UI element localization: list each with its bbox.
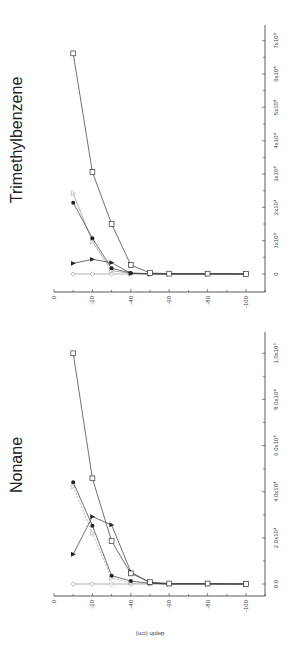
data-point-diamond-open (90, 272, 94, 276)
concentration-tick-label: 2.0x10⁴ (273, 527, 279, 548)
data-point-circle-filled (110, 266, 114, 270)
data-point-diamond-open (71, 272, 75, 276)
series-square-open (71, 351, 249, 586)
series-triangle-filled (71, 514, 249, 586)
data-point-diamond-open (71, 582, 75, 586)
data-point-triangle-filled (109, 260, 114, 265)
data-point-diamond-open (90, 582, 94, 586)
concentration-tick-label: 6x10⁴ (273, 66, 279, 82)
data-point-circle-filled (129, 579, 133, 583)
data-point-square-open (71, 51, 76, 56)
data-point-diamond-open (109, 582, 113, 586)
depth-tick-label: -60 (166, 295, 172, 304)
data-point-square-open (71, 351, 76, 356)
data-point-square-open (90, 476, 95, 481)
data-point-square-open (128, 571, 133, 576)
depth-tick-label: -20 (89, 295, 95, 304)
series-square-open (71, 51, 249, 276)
concentration-tick-label: 1x10⁴ (273, 232, 279, 248)
concentration-tick-label: 3x10⁴ (273, 166, 279, 182)
concentration-tick-label: 5x10⁴ (273, 99, 279, 115)
chart-panel-nonane: Nonane0-20-40-60-80-100depth (cm)0.02.0x… (8, 332, 279, 637)
depth-tick-label: -60 (166, 599, 172, 608)
data-point-square-open (148, 580, 153, 585)
depth-tick-label: 0 (51, 295, 57, 299)
data-point-triangle-filled (109, 523, 114, 528)
chart-figure: Trimethylbenzene0-20-40-60-80-10001x10⁴2… (0, 0, 307, 656)
depth-tick-label: -80 (205, 599, 211, 608)
data-point-square-open (109, 222, 114, 227)
data-point-triangle-filled (90, 257, 95, 262)
depth-tick-label: 0 (51, 599, 57, 603)
depth-axis-title: depth (cm) (136, 631, 165, 637)
concentration-tick-label: 0 (273, 272, 279, 276)
depth-tick-label: -100 (243, 295, 249, 308)
depth-tick-label: -40 (128, 599, 134, 608)
series-circle-filled (71, 201, 248, 276)
series-triangle-open (71, 191, 248, 276)
data-point-triangle-open (90, 531, 94, 535)
chart-panel-trimethylbenzene: Trimethylbenzene0-20-40-60-80-10001x10⁴2… (8, 25, 279, 308)
data-point-triangle-filled (90, 514, 95, 519)
depth-tick-label: -40 (128, 295, 134, 304)
chart-title: Nonane (8, 437, 25, 493)
depth-tick-label: -100 (243, 599, 249, 612)
data-point-circle-filled (129, 271, 133, 275)
data-point-circle-filled (90, 524, 94, 528)
data-point-circle-filled (90, 236, 94, 240)
depth-tick-label: -80 (205, 295, 211, 304)
concentration-tick-label: 4.0x10⁴ (273, 481, 279, 502)
data-point-square-open (205, 271, 210, 276)
data-point-square-open (148, 271, 153, 276)
data-point-square-open (90, 170, 95, 175)
data-point-triangle-filled (71, 261, 76, 266)
data-point-square-open (244, 582, 249, 587)
data-point-square-open (128, 263, 133, 268)
data-point-circle-filled (71, 480, 75, 484)
concentration-tick-label: 6.0x10⁴ (273, 435, 279, 456)
chart-title: Trimethylbenzene (8, 77, 25, 204)
concentration-tick-label: 7x10⁴ (273, 32, 279, 48)
concentration-tick-label: 1.0x10⁵ (273, 343, 279, 364)
data-point-square-open (167, 271, 172, 276)
data-point-square-open (167, 581, 172, 586)
data-point-triangle-open (71, 191, 75, 195)
data-point-circle-filled (110, 574, 114, 578)
data-point-square-open (205, 581, 210, 586)
concentration-tick-label: 8.0x10⁴ (273, 389, 279, 410)
depth-tick-label: -20 (89, 599, 95, 608)
series-triangle-open (71, 484, 248, 586)
concentration-tick-label: 2x10⁴ (273, 199, 279, 215)
data-point-circle-filled (71, 201, 75, 205)
data-point-triangle-filled (71, 552, 76, 557)
concentration-tick-label: 0.0 (273, 579, 279, 588)
concentration-tick-label: 4x10⁴ (273, 132, 279, 148)
data-point-square-open (244, 272, 249, 277)
data-point-square-open (109, 539, 114, 544)
